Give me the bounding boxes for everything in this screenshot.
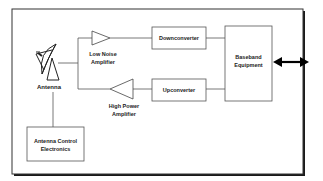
lna-label-line1: Low Noise — [89, 51, 117, 57]
block-diagram: Antenna Low Noise Amplifier High Power A… — [0, 0, 323, 181]
lna-label-line2: Amplifier — [91, 59, 116, 65]
upconverter-label: Upconverter — [163, 87, 196, 93]
antenna-control-label-line1: Antenna Control — [34, 138, 78, 144]
baseband-label-line2: Equipment — [234, 62, 263, 68]
downconverter-label: Downconverter — [159, 35, 200, 41]
antenna-control-label-line2: Electronics — [41, 146, 71, 152]
antenna-label: Antenna — [37, 84, 62, 90]
hpa-label-line1: High Power — [109, 103, 140, 109]
baseband-label-line1: Baseband — [235, 54, 261, 60]
antenna-control-electronics-block — [27, 127, 84, 161]
hpa-label-line2: Amplifier — [112, 111, 137, 117]
